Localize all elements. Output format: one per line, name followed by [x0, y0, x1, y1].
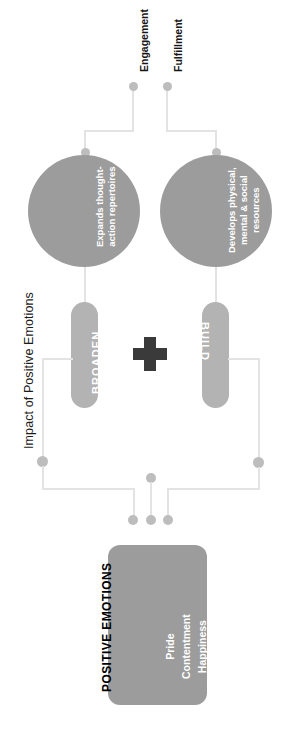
connector-engagement-vertical: [132, 91, 134, 131]
build-pill[interactable]: BUILD: [202, 302, 229, 408]
connector-right-drop: [258, 467, 260, 489]
connector-broaden-pill-out: [42, 358, 73, 360]
connector-fulfillment-vertical: [166, 91, 168, 131]
connector-dot-engagement: [129, 82, 138, 91]
connector-build-circle-to-pill: [215, 267, 217, 302]
build-circle-text: Develops physical,mental & socialresourc…: [226, 167, 262, 253]
build-pill-label: BUILD: [199, 322, 211, 361]
positive-emotions-box[interactable]: PrideContentmentHappiness: [108, 545, 207, 705]
positive-emotions-title: POSITIVE EMOTIONS: [100, 563, 114, 692]
broaden-pill-label: BROADEN: [90, 331, 102, 394]
broaden-circle-text: Expands thought-action repertoires: [94, 166, 118, 247]
connector-fulfillment-horizontal: [166, 130, 216, 132]
connector-dot-fulfillment: [163, 82, 172, 91]
connector-broaden-circle-to-pill: [84, 267, 86, 302]
connector-dot-box-left: [128, 515, 138, 525]
outcome-label-engagement: Engagement: [138, 9, 150, 72]
connector-dot-box-right: [163, 515, 173, 525]
connector-dot-box-center: [146, 515, 156, 525]
positive-emotions-items: PrideContentmentHappiness: [162, 614, 210, 679]
connector-right-vertical: [258, 358, 260, 463]
diagram-canvas: Engagement Fulfillment Expands thought-a…: [0, 0, 282, 735]
broaden-pill[interactable]: BROADEN: [71, 302, 98, 408]
broaden-circle[interactable]: Expands thought-action repertoires: [28, 155, 140, 267]
connector-build-pill-out: [228, 358, 260, 360]
connector-right-run: [167, 488, 260, 490]
connector-engagement-horizontal: [85, 130, 134, 132]
connector-center-vertical: [150, 482, 152, 519]
connector-left-run: [42, 488, 135, 490]
connector-left-vertical: [42, 358, 44, 463]
section-title: Impact of Positive Emotions: [22, 292, 36, 449]
connector-left-drop: [42, 466, 44, 489]
plus-icon: [133, 337, 167, 371]
build-circle[interactable]: Develops physical,mental & socialresourc…: [160, 155, 272, 267]
outcome-label-fulfillment: Fulfillment: [172, 19, 184, 72]
